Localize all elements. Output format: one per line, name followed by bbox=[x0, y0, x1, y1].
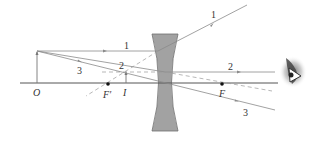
focal-point-near bbox=[106, 82, 110, 86]
label-focal-far: F bbox=[218, 88, 226, 99]
label-focal-near: F′ bbox=[102, 89, 112, 100]
optics-diagram: O I F′ F 1 1 2 2 3 3 bbox=[0, 0, 322, 141]
ray-3-incident-arrow bbox=[78, 60, 82, 63]
ray-2-refracted-arrow bbox=[237, 71, 241, 74]
observer-eye-icon bbox=[279, 56, 307, 88]
focal-point-far bbox=[220, 82, 224, 86]
ray-1-incident-arrow bbox=[103, 50, 107, 53]
ray-2-incident bbox=[37, 51, 165, 72]
ray-1-virtual-extension bbox=[86, 51, 158, 96]
label-ray-1-left: 1 bbox=[124, 40, 129, 51]
label-object: O bbox=[33, 87, 40, 98]
label-ray-2-right: 2 bbox=[228, 61, 233, 72]
label-image: I bbox=[122, 87, 127, 98]
label-ray-2-left: 2 bbox=[119, 60, 124, 71]
label-ray-3-left: 3 bbox=[77, 65, 82, 76]
label-ray-1-right: 1 bbox=[211, 9, 216, 20]
label-ray-3-right: 3 bbox=[243, 107, 248, 118]
ray-1-refracted bbox=[158, 5, 247, 51]
ray-3 bbox=[37, 51, 275, 110]
